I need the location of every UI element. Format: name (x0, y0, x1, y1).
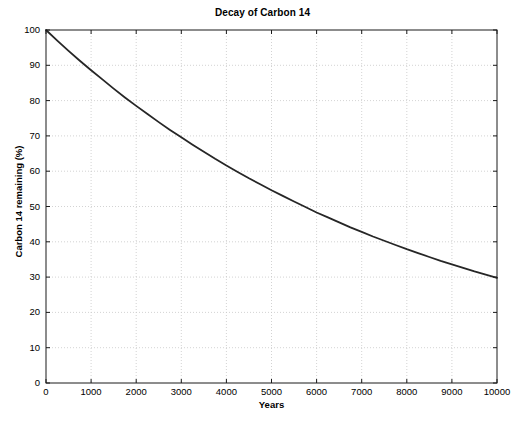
plot-area (0, 0, 525, 425)
x-tick-label: 2000 (113, 386, 159, 397)
y-tick-label: 100 (8, 24, 40, 35)
x-tick-label: 9000 (429, 386, 475, 397)
x-tick-label: 3000 (158, 386, 204, 397)
x-tick-label: 1000 (68, 386, 114, 397)
x-tick-label: 10000 (474, 386, 520, 397)
y-tick-label: 90 (8, 59, 40, 70)
x-tick-label: 8000 (384, 386, 430, 397)
x-tick-label: 7000 (339, 386, 385, 397)
y-axis-label: Carbon 14 remaining (%) (13, 122, 24, 282)
y-tick-label: 80 (8, 95, 40, 106)
x-axis-label: Years (46, 399, 497, 410)
y-tick-label: 20 (8, 306, 40, 317)
x-tick-label: 0 (23, 386, 69, 397)
x-tick-label: 6000 (294, 386, 340, 397)
x-tick-label: 4000 (203, 386, 249, 397)
x-tick-label: 5000 (249, 386, 295, 397)
y-tick-label: 10 (8, 342, 40, 353)
figure-canvas: Decay of Carbon 14 010203040506070809010… (0, 0, 525, 425)
